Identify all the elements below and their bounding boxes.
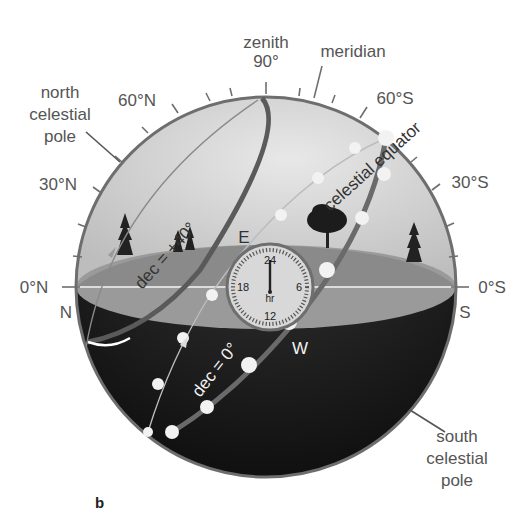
zenith-label: zenith: [243, 33, 288, 52]
figure-panel-label: b: [95, 494, 104, 511]
clock-number-6: 6: [296, 281, 302, 293]
north-pole-pointer: [86, 132, 120, 162]
clock-number-24: 24: [264, 254, 276, 266]
tick-0N: 0°N: [20, 278, 49, 297]
meridian-label: meridian: [320, 42, 385, 61]
celestial-sphere-diagram: zenith 90° meridian north celestial pole…: [0, 0, 523, 517]
tick-60N: 60°N: [118, 91, 156, 110]
direction-north: N: [60, 303, 72, 322]
clock-unit: hr: [266, 293, 276, 304]
north-pole-label-2: celestial: [29, 105, 90, 124]
clock-number-18: 18: [237, 281, 249, 293]
south-pole-pointer: [410, 410, 445, 432]
tick-30S: 30°S: [451, 173, 488, 192]
meridian-pointer: [314, 66, 322, 98]
tick-0S: 0°S: [478, 278, 506, 297]
direction-west: W: [292, 339, 308, 358]
north-pole-label-1: north: [41, 83, 80, 102]
tick-60S: 60°S: [376, 89, 413, 108]
clock-number-12: 12: [264, 310, 276, 322]
south-pole-label-3: pole: [441, 471, 473, 490]
direction-east: E: [238, 228, 249, 247]
south-pole-label-2: celestial: [426, 449, 487, 468]
zenith-angle-label: 90°: [253, 52, 279, 71]
direction-south: S: [459, 303, 470, 322]
north-pole-label-3: pole: [44, 127, 76, 146]
tick-30N: 30°N: [39, 175, 77, 194]
